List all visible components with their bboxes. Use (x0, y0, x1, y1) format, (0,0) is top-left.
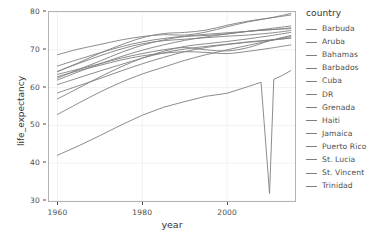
legend-item-label: DR (322, 90, 333, 99)
x-axis-title: year (48, 219, 296, 230)
legend-line-icon (305, 75, 318, 86)
legend-item[interactable]: Barbados (305, 61, 390, 74)
legend-item[interactable]: Barbuda (305, 22, 390, 35)
y-tick-mark (43, 200, 46, 201)
legend-item-label: Barbuda (322, 24, 355, 33)
legend-item[interactable]: Grenada (305, 101, 390, 114)
x-tick-label: 2000 (217, 208, 237, 217)
y-tick-mark (43, 48, 46, 49)
legend-line-icon (305, 89, 318, 100)
legend-item-label: Haiti (322, 116, 340, 125)
legend-item-label: Puerto Rico (322, 142, 366, 151)
y-tick-mark (43, 124, 46, 125)
y-tick-mark (43, 11, 46, 12)
x-tick-mark (57, 202, 58, 205)
y-tick-label: 30 (30, 196, 40, 205)
legend-item[interactable]: Trinidad (305, 179, 390, 192)
legend-item[interactable]: Cuba (305, 74, 390, 87)
legend-item-label: Bahamas (322, 50, 358, 59)
y-tick-label: 50 (30, 120, 40, 129)
legend-line-icon (305, 62, 318, 73)
legend-item-label: Cuba (322, 76, 342, 85)
legend-line-icon (305, 23, 318, 34)
legend-item-label: St. Vincent (322, 168, 364, 177)
series-line (57, 71, 290, 194)
series-line (57, 29, 290, 79)
y-tick-mark (43, 86, 46, 87)
legend-item-label: Barbados (322, 63, 359, 72)
legend: country BarbudaArubaBahamasBarbadosCubaD… (305, 8, 390, 192)
legend-item[interactable]: Aruba (305, 35, 390, 48)
plot-lines-svg (49, 12, 295, 201)
y-axis-title: life_expectancy (16, 41, 26, 181)
legend-line-icon (305, 115, 318, 126)
legend-items: BarbudaArubaBahamasBarbadosCubaDRGrenada… (305, 22, 390, 192)
legend-line-icon (305, 141, 318, 152)
x-tick-mark (227, 202, 228, 205)
legend-item[interactable]: Puerto Rico (305, 140, 390, 153)
legend-item[interactable]: St. Vincent (305, 166, 390, 179)
y-tick-label: 40 (30, 158, 40, 167)
legend-line-icon (305, 102, 318, 113)
legend-item-label: St. Lucia (322, 155, 355, 164)
y-tick-label: 80 (30, 7, 40, 16)
legend-item-label: Jamaica (322, 129, 353, 138)
legend-line-icon (305, 180, 318, 191)
legend-title: country (306, 8, 390, 18)
y-tick-label: 70 (30, 44, 40, 53)
x-tick-label: 1960 (48, 208, 68, 217)
legend-item[interactable]: Bahamas (305, 48, 390, 61)
y-tick-label: 60 (30, 82, 40, 91)
legend-item-label: Aruba (322, 37, 345, 46)
y-tick-mark (43, 162, 46, 163)
line-chart-figure: 304050607080 life_expectancy 19601980200… (0, 0, 390, 235)
legend-item[interactable]: Haiti (305, 114, 390, 127)
legend-line-icon (305, 36, 318, 47)
legend-line-icon (305, 49, 318, 60)
legend-item-label: Trinidad (322, 181, 353, 190)
series-line (57, 28, 290, 66)
plot-area (48, 11, 296, 202)
x-tick-label: 1980 (132, 208, 152, 217)
plot-panel (48, 11, 296, 202)
legend-item[interactable]: Jamaica (305, 127, 390, 140)
legend-line-icon (305, 128, 318, 139)
legend-item[interactable]: DR (305, 87, 390, 100)
legend-line-icon (305, 154, 318, 165)
legend-item-label: Grenada (322, 103, 355, 112)
x-tick-mark (142, 202, 143, 205)
legend-line-icon (305, 167, 318, 178)
legend-item[interactable]: St. Lucia (305, 153, 390, 166)
